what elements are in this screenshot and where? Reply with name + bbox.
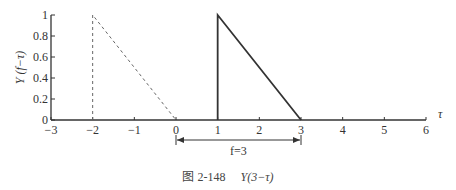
series: [93, 15, 301, 120]
y-tick-label: 0.4: [33, 71, 48, 85]
x-tick-label: 3: [298, 123, 304, 137]
y-tick-label: 1: [42, 8, 48, 22]
arrow-label: f=3: [230, 144, 247, 158]
caption-formula: Y(3−τ): [240, 170, 273, 184]
x-tick-label: 6: [423, 123, 429, 137]
x-tick-label: 1: [215, 123, 221, 137]
solid-series-line: [218, 15, 301, 120]
dashed-series-line: [93, 15, 176, 120]
x-tick-label: −2: [86, 123, 99, 137]
caption-number: 图 2-148: [182, 170, 225, 184]
y-tick-label: 0.8: [33, 29, 48, 43]
arrow-head-left-icon: [177, 137, 184, 143]
y-tick-label: 0.2: [33, 92, 48, 106]
chart-svg: −3−2−1012345600.20.40.60.81τY (f−τ) f=3: [0, 0, 456, 190]
x-axis-label: τ: [438, 107, 443, 121]
figure-caption: 图 2-148 Y(3−τ): [0, 167, 456, 185]
annotations: f=3: [176, 135, 301, 158]
x-tick-label: 4: [340, 123, 346, 137]
arrow-head-right-icon: [293, 137, 300, 143]
x-tick-label: 5: [381, 123, 387, 137]
y-axis-label: Y (f−τ): [13, 51, 27, 84]
y-tick-label: 0: [42, 113, 48, 127]
x-tick-label: 0: [173, 123, 179, 137]
x-tick-label: −1: [128, 123, 141, 137]
x-tick-label: 2: [256, 123, 262, 137]
y-tick-label: 0.6: [33, 50, 48, 64]
